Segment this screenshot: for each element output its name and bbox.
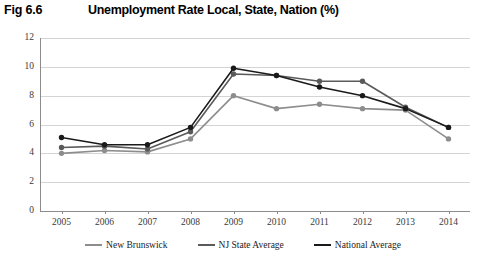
data-point-marker (145, 142, 150, 147)
chart-legend: New BrunswickNJ State AverageNational Av… (0, 236, 486, 254)
data-point-marker (317, 79, 322, 84)
data-series-layer (0, 24, 486, 272)
figure-title-row: Fig 6.6 Unemployment Rate Local, State, … (0, 0, 486, 24)
data-point-marker (274, 106, 279, 111)
legend-line-swatch (314, 244, 331, 246)
data-point-marker (446, 136, 451, 141)
data-point-marker (102, 142, 107, 147)
data-point-marker (59, 151, 64, 156)
data-point-marker (403, 106, 408, 111)
chart-title: Unemployment Rate Local, State, Nation (… (88, 3, 339, 17)
legend-label: New Brunswick (106, 240, 167, 250)
data-point-marker (59, 145, 64, 150)
series-line (62, 74, 449, 149)
data-point-marker (446, 125, 451, 130)
legend-item: NJ State Average (198, 240, 284, 250)
figure-container: Fig 6.6 Unemployment Rate Local, State, … (0, 0, 486, 272)
data-point-marker (231, 66, 236, 71)
data-point-marker (360, 106, 365, 111)
data-point-marker (59, 135, 64, 140)
legend-item: National Average (314, 240, 401, 250)
plot-area: 024681012 200520062007200820092010201120… (0, 24, 486, 272)
data-point-marker (360, 79, 365, 84)
legend-line-swatch (198, 244, 215, 246)
data-point-marker (274, 73, 279, 78)
legend-line-swatch (85, 244, 102, 246)
series-national-average (59, 66, 451, 148)
series-line (62, 68, 449, 144)
figure-number-label: Fig 6.6 (4, 3, 42, 17)
data-point-marker (188, 136, 193, 141)
legend-label: National Average (335, 240, 401, 250)
series-nj-state-average (59, 71, 451, 151)
legend-item: New Brunswick (85, 240, 167, 250)
data-point-marker (317, 102, 322, 107)
legend-label: NJ State Average (219, 240, 284, 250)
data-point-marker (188, 125, 193, 130)
data-point-marker (231, 93, 236, 98)
data-point-marker (360, 93, 365, 98)
data-point-marker (317, 84, 322, 89)
